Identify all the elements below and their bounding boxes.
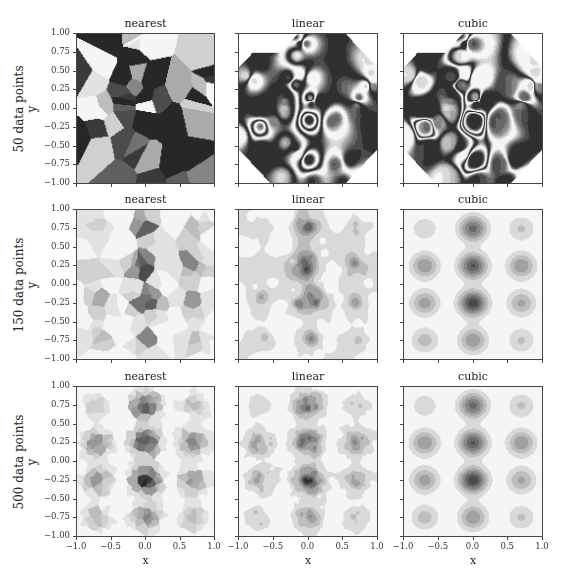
x-tick-mark: [76, 537, 77, 540]
x-tick-mark: [507, 360, 508, 363]
y-tick-mark: [235, 284, 238, 285]
y-tick-mark: [235, 340, 238, 341]
x-tick-mark: [342, 184, 343, 187]
x-tick-label: 0.0: [293, 541, 323, 551]
x-tick-label: −1.0: [223, 541, 253, 551]
x-tick-mark: [273, 184, 274, 187]
x-tick-mark: [542, 184, 543, 187]
y-tick-mark: [235, 303, 238, 304]
x-tick-mark: [111, 537, 112, 540]
x-tick-label: −0.5: [258, 541, 288, 551]
y-tick-label: −1.00: [36, 177, 70, 187]
y-tick-mark: [235, 386, 238, 387]
y-tick-mark: [235, 108, 238, 109]
panel-title: nearest: [76, 193, 215, 206]
y-tick-mark: [235, 480, 238, 481]
y-tick-mark: [73, 146, 76, 147]
y-tick-mark: [400, 340, 403, 341]
y-tick-mark: [400, 33, 403, 34]
x-tick-mark: [273, 360, 274, 363]
panel-title: linear: [238, 193, 378, 206]
y-tick-label: −0.25: [36, 121, 70, 131]
y-tick-mark: [73, 71, 76, 72]
x-tick-mark: [111, 184, 112, 187]
y-tick-mark: [400, 164, 403, 165]
y-tick-mark: [235, 71, 238, 72]
y-tick-mark: [400, 108, 403, 109]
y-tick-mark: [235, 209, 238, 210]
y-tick-mark: [73, 405, 76, 406]
panel-title: linear: [238, 370, 378, 383]
y-tick-mark: [400, 424, 403, 425]
y-tick-mark: [73, 480, 76, 481]
y-tick-label: 0.25: [36, 83, 70, 93]
y-tick-mark: [235, 499, 238, 500]
x-tick-mark: [145, 184, 146, 187]
panel-title: nearest: [76, 17, 215, 30]
panel-title: cubic: [403, 370, 543, 383]
x-tick-mark: [308, 537, 309, 540]
y-tick-label: 1.00: [36, 380, 70, 390]
y-tick-mark: [400, 517, 403, 518]
y-tick-mark: [400, 322, 403, 323]
x-tick-label: −1.0: [388, 541, 418, 551]
y-tick-mark: [400, 405, 403, 406]
y-tick-label: 0.00: [36, 102, 70, 112]
x-tick-label: 0.5: [165, 541, 195, 551]
x-tick-mark: [76, 360, 77, 363]
y-tick-mark: [400, 228, 403, 229]
y-tick-mark: [73, 517, 76, 518]
y-tick-mark: [73, 386, 76, 387]
y-tick-mark: [73, 127, 76, 128]
y-tick-mark: [235, 89, 238, 90]
y-tick-mark: [400, 71, 403, 72]
y-tick-label: −1.00: [36, 353, 70, 363]
contour-image: [404, 210, 542, 359]
y-tick-label: 0.00: [36, 455, 70, 465]
plot-cubic-150: [403, 209, 543, 360]
x-tick-mark: [145, 537, 146, 540]
plot-linear-150: [238, 209, 378, 360]
y-tick-label: −0.25: [36, 297, 70, 307]
x-tick-mark: [473, 184, 474, 187]
y-tick-mark: [400, 461, 403, 462]
x-axis-label: x: [298, 554, 318, 567]
x-tick-mark: [507, 537, 508, 540]
x-tick-label: 1.0: [527, 541, 557, 551]
y-tick-mark: [235, 228, 238, 229]
x-tick-mark: [542, 537, 543, 540]
x-tick-label: −0.5: [423, 541, 453, 551]
y-tick-label: −1.00: [36, 530, 70, 540]
plot-linear-50: [238, 33, 378, 184]
x-tick-mark: [238, 184, 239, 187]
y-tick-label: −0.25: [36, 474, 70, 484]
x-tick-mark: [214, 360, 215, 363]
y-tick-mark: [235, 127, 238, 128]
x-tick-label: −0.5: [96, 541, 126, 551]
contour-image: [404, 34, 542, 183]
plot-nearest-50: [76, 33, 215, 184]
contour-image: [77, 387, 214, 536]
y-tick-label: −0.75: [36, 334, 70, 344]
contour-image: [77, 210, 214, 359]
x-tick-mark: [76, 184, 77, 187]
x-tick-mark: [473, 537, 474, 540]
y-tick-label: 0.50: [36, 241, 70, 251]
y-tick-mark: [73, 424, 76, 425]
y-tick-mark: [400, 146, 403, 147]
contour-image: [239, 34, 377, 183]
x-tick-mark: [342, 537, 343, 540]
y-tick-mark: [235, 146, 238, 147]
y-tick-mark: [73, 108, 76, 109]
y-tick-mark: [400, 499, 403, 500]
y-tick-mark: [73, 499, 76, 500]
x-tick-mark: [377, 184, 378, 187]
contour-image: [77, 34, 214, 183]
y-tick-label: −0.50: [36, 493, 70, 503]
panel-title: cubic: [403, 193, 543, 206]
panel-title: cubic: [403, 17, 543, 30]
x-tick-mark: [238, 537, 239, 540]
y-tick-mark: [400, 386, 403, 387]
x-tick-mark: [111, 360, 112, 363]
y-tick-mark: [73, 284, 76, 285]
